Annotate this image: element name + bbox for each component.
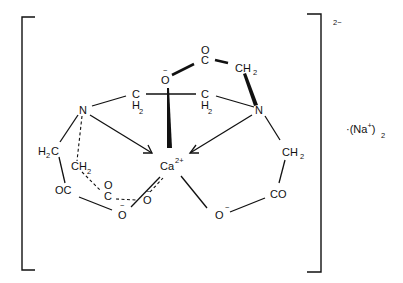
atom-o-top-charge: −	[163, 66, 168, 75]
atom-o-top: O	[161, 74, 170, 86]
atom-ch2-bridge-left-sub: 2	[139, 107, 143, 116]
bond-nleft-ch2	[92, 96, 126, 106]
atom-o-bottom-left-charge: −	[120, 201, 125, 210]
atom-ch2-right-sub: 2	[300, 152, 304, 161]
atom-h2c-left-c: C	[51, 145, 59, 157]
atom-ch2-top: CH	[235, 62, 251, 74]
bond-otop-ctop	[172, 64, 194, 75]
left-bracket	[22, 17, 35, 270]
atom-h2c-left-h: H	[38, 145, 46, 157]
atom-ch2-top-sub: 2	[253, 68, 257, 77]
atom-o-bottom-right: O	[215, 209, 224, 221]
counterion: ·(Na+)	[346, 121, 375, 135]
atom-ca-charge: 2+	[175, 156, 184, 165]
atom-ch2-left-back-sub: 2	[87, 167, 91, 176]
bond-nright-ch2right	[265, 116, 280, 140]
atom-ch2-left-back: CH	[71, 160, 87, 172]
bond-otop-ca	[167, 88, 172, 148]
bond-nleft-h2c	[60, 115, 78, 142]
atom-o-bottom-mid-charge: −	[146, 187, 151, 196]
bond-cback-omid	[116, 199, 136, 200]
edta-calcium-diagram: Ca 2+ N N C H 2 C H 2 O − O C CH 2 H 2 C…	[0, 0, 403, 283]
counterion-count: 2	[381, 131, 385, 140]
atom-ch2-bridge-right-sub: 2	[208, 107, 212, 116]
atom-oc-left: OC	[55, 184, 72, 196]
bond-nleft-ch2back	[77, 116, 82, 161]
atom-h2c-left-sub: 2	[46, 151, 50, 160]
atom-c-left-back: C	[104, 190, 112, 202]
atom-o-bottom-right-charge: −	[225, 203, 230, 212]
bond-ch2top-nright	[243, 73, 258, 106]
atom-n-left: N	[79, 104, 87, 116]
bond-obr-ca	[181, 176, 207, 208]
bond-nleft-ca	[90, 115, 152, 153]
bond-co-obr	[230, 198, 265, 212]
atom-o-bottom-left: O	[118, 209, 127, 221]
bond-nright-ca	[190, 115, 252, 153]
atom-n-right: N	[255, 104, 263, 116]
bond-ch2-nright	[216, 96, 254, 107]
bond-h2c-oc	[59, 157, 65, 183]
atom-ch2-right: CH	[282, 146, 298, 158]
right-bracket	[307, 14, 321, 272]
atom-ca: Ca	[160, 160, 175, 172]
structure-canvas: Ca 2+ N N C H 2 C H 2 O − O C CH 2 H 2 C…	[0, 0, 403, 283]
complex-charge: 2−	[333, 18, 342, 27]
atom-c-top: C	[201, 54, 209, 66]
bond-ch2right-co	[279, 160, 285, 183]
atom-co-right: CO	[270, 188, 287, 200]
bond-ctop-ch2	[215, 60, 228, 63]
